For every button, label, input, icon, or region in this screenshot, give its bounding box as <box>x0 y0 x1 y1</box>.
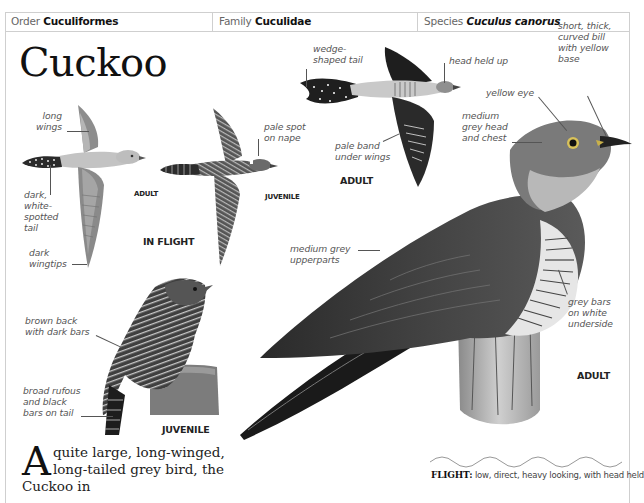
body-text: quite large, long-winged, long-tailed gr… <box>22 444 225 494</box>
label-head-held-up: head held up <box>449 55 508 66</box>
label-grey-head-chest: medium grey head and chest <box>462 110 508 143</box>
caption-adult-flight: ADULT <box>134 190 158 198</box>
caption-adult-flying: ADULT <box>340 175 373 186</box>
label-dark-wingtips: dark wingtips <box>29 247 67 269</box>
body-paragraph: Aquite large, long-winged, long-tailed g… <box>22 444 237 495</box>
leader-line <box>72 264 87 265</box>
juvenile-perched-illustration <box>95 275 225 440</box>
family-cell: Family Cuculidae <box>213 12 418 31</box>
label-long-wings: long wings <box>36 110 62 132</box>
order-value: Cuculiformes <box>43 15 118 27</box>
caption-juvenile-perched: JUVENILE <box>162 424 210 435</box>
wave-divider <box>430 452 630 468</box>
label-bill: short, thick, curved bill with yellow ba… <box>558 20 611 64</box>
family-value: Cuculidae <box>255 15 311 27</box>
flight-text: low, direct, heavy looking, with head he… <box>472 470 644 480</box>
leader-line <box>81 416 113 417</box>
label-spotted-tail: dark, white- spotted tail <box>24 189 58 233</box>
order-cell: Order Cuculiformes <box>5 12 213 31</box>
adult-perched-illustration <box>240 110 635 440</box>
page-title: Cuckoo <box>19 42 167 82</box>
caption-adult-perched: ADULT <box>577 370 610 381</box>
order-label: Order <box>11 15 40 27</box>
flight-note: FLIGHT: low, direct, heavy looking, with… <box>431 470 641 480</box>
caption-juvenile-flight: JUVENILE <box>265 193 300 201</box>
label-barred-underside: grey bars on white underside <box>568 296 613 329</box>
label-brown-back: brown back with dark bars <box>25 315 90 337</box>
label-upperparts: medium grey upperparts <box>290 243 350 265</box>
leader-line <box>512 142 542 143</box>
caption-in-flight: IN FLIGHT <box>143 236 194 247</box>
leader-line <box>50 165 51 195</box>
species-label: Species <box>424 15 463 27</box>
leader-line <box>358 250 380 251</box>
drop-cap: A <box>22 445 51 477</box>
label-wedge-tail: wedge- shaped tail <box>313 43 363 65</box>
flight-label: FLIGHT: <box>431 470 472 480</box>
family-label: Family <box>219 15 252 27</box>
label-pale-nape: pale spot on nape <box>264 121 306 143</box>
leader-line <box>444 63 445 83</box>
label-yellow-eye: yellow eye <box>486 87 534 98</box>
taxonomy-header: Order Cuculiformes Family Cuculidae Spec… <box>5 12 629 32</box>
label-pale-band: pale band under wings <box>335 140 390 162</box>
leader-line <box>306 69 307 87</box>
species-value: Cuculus canorus <box>467 15 561 27</box>
leader-line <box>67 131 89 132</box>
leader-line <box>258 139 259 156</box>
label-rufous-tail: broad rufous and black bars on tail <box>23 385 80 418</box>
